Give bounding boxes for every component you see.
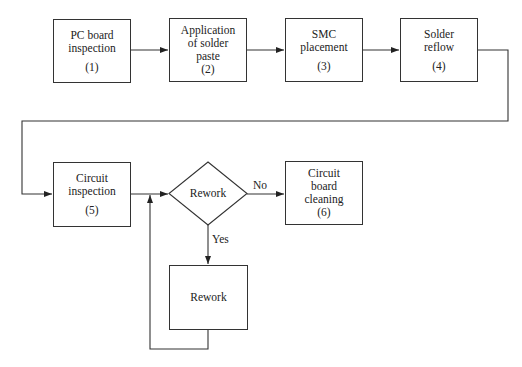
node-label-line: cleaning: [305, 193, 344, 206]
node-number: (4): [432, 60, 445, 73]
node-label-line: of solder: [188, 37, 229, 50]
node-rework: Rework: [169, 265, 248, 330]
node-label-line: placement: [300, 41, 347, 54]
node-solder-reflow: Solder reflow (4): [400, 18, 478, 82]
node-label-line: Rework: [190, 291, 226, 304]
node-label-line: Solder: [424, 28, 454, 41]
node-label-line: SMC: [312, 28, 336, 41]
node-label-line: Application: [181, 24, 235, 37]
node-number: (1): [85, 61, 98, 74]
edge-label-yes: Yes: [212, 233, 229, 245]
edge-label-no: No: [253, 179, 267, 191]
node-smc-placement: SMC placement (3): [285, 18, 363, 82]
decision-label: Rework: [169, 187, 247, 199]
node-label-line: Circuit: [308, 167, 340, 180]
node-application-of-solder-paste: Application of solder paste (2): [169, 18, 247, 82]
node-number: (3): [317, 60, 330, 73]
node-label-line: reflow: [424, 41, 454, 54]
node-circuit-board-cleaning: Circuit board cleaning (6): [285, 161, 363, 225]
node-number: (5): [85, 204, 98, 217]
node-pc-board-inspection: PC board inspection (1): [53, 19, 131, 83]
node-label-line: Circuit: [76, 172, 108, 185]
node-label-line: board: [311, 180, 337, 193]
node-number: (2): [201, 63, 214, 76]
node-number: (6): [317, 206, 330, 219]
node-label-line: inspection: [68, 185, 115, 198]
node-label-line: inspection: [68, 42, 115, 55]
node-label-line: paste: [196, 50, 220, 63]
node-label-line: PC board: [70, 29, 113, 42]
node-circuit-inspection: Circuit inspection (5): [53, 162, 131, 227]
